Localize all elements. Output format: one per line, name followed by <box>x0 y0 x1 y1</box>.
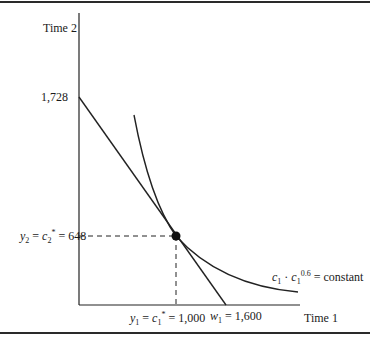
budget-line <box>79 97 226 305</box>
y-optimum-label: y2 = c2* = 648 <box>20 229 86 243</box>
optimum-point <box>172 232 181 241</box>
indifference-curve <box>134 115 298 292</box>
y-axis-label: Time 2 <box>43 21 77 35</box>
x-intercept-label: w1 = 1,600 <box>210 309 262 323</box>
diagram-canvas <box>0 0 370 344</box>
curve-label: c1 · c10.6 = constant <box>272 270 363 284</box>
y-intercept-label: 1,728 <box>41 90 68 104</box>
x-axis-label: Time 1 <box>304 311 338 325</box>
x-optimum-label: y1 = c1* = 1,000 <box>130 311 205 325</box>
